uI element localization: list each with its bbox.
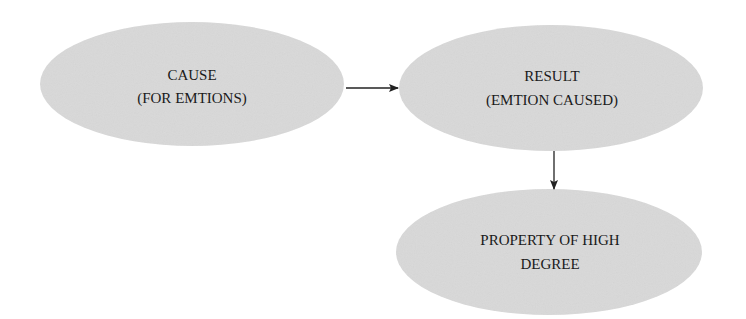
node-property: PROPERTY OF HIGH DEGREE [396, 189, 702, 315]
node-cause-shape [40, 22, 344, 146]
node-cause-line-1: CAUSE [167, 67, 216, 83]
node-cause: CAUSE (FOR EMTIONS) [40, 22, 344, 146]
node-result: RESULT (EMTION CAUSED) [399, 25, 703, 151]
flow-diagram: CAUSE (FOR EMTIONS) RESULT (EMTION CAUSE… [0, 0, 746, 319]
node-result-shape [399, 25, 703, 151]
node-property-line-2: DEGREE [520, 256, 579, 272]
node-property-shape [396, 189, 702, 315]
node-result-line-2: (EMTION CAUSED) [486, 92, 618, 109]
node-cause-line-2: (FOR EMTIONS) [137, 90, 247, 107]
node-result-line-1: RESULT [524, 68, 579, 84]
node-property-line-1: PROPERTY OF HIGH [480, 232, 620, 248]
